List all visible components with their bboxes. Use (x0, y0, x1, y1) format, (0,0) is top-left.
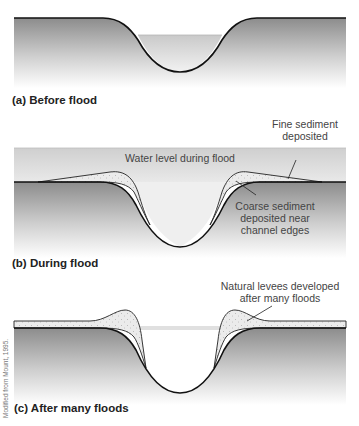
label-coarse-sediment: Coarse sediment deposited near channel e… (225, 200, 325, 236)
caption-a: (a) Before flood (12, 94, 97, 106)
panel-c-water (138, 326, 224, 330)
label-natural-levees: Natural levees developed after many floo… (215, 280, 345, 304)
caption-b: (b) During flood (12, 257, 98, 269)
panel-a-before-flood (14, 18, 346, 88)
label-fine-sediment: Fine sediment deposited (265, 118, 345, 142)
caption-c: (c) After many floods (14, 402, 129, 414)
source-credit: Modified from Mount, 1995. (2, 339, 9, 418)
label-water-level: Water level during flood (120, 152, 240, 164)
panel-c-after-floods (14, 306, 346, 405)
